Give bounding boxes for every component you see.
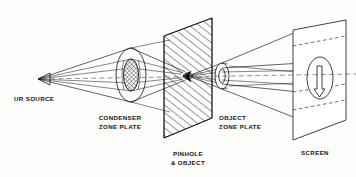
label-screen: SCREEN xyxy=(301,149,329,156)
label-pinhole-line1: PINHOLE xyxy=(173,150,203,157)
optical-ray-diagram: UR SOURCE CONDENSER ZONE PLATE PINHOLE &… xyxy=(0,0,356,177)
label-condenser-zone-plate-line2: ZONE PLATE xyxy=(99,123,141,130)
condenser-zone-plate xyxy=(116,48,146,102)
label-condenser-zone-plate-line1: CONDENSER xyxy=(99,114,142,121)
figure-root: UR SOURCE CONDENSER ZONE PLATE PINHOLE &… xyxy=(0,0,356,177)
label-source: UR SOURCE xyxy=(14,95,54,102)
label-object-zone-plate-line2: ZONE PLATE xyxy=(219,123,261,130)
screen-image-spot xyxy=(307,57,333,99)
label-object-zone-plate-line1: OBJECT xyxy=(219,114,246,121)
label-pinhole-line2: & OBJECT xyxy=(171,159,205,166)
